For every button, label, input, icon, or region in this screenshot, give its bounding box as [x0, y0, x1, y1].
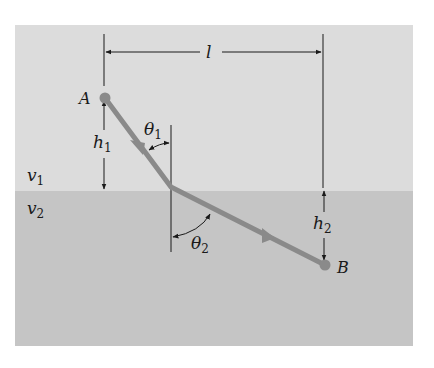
- medium-1-region: [15, 25, 413, 191]
- medium-2-region: [15, 191, 413, 346]
- refraction-diagram: l h1 h2 A B θ1 θ2 v1 v2: [0, 0, 434, 368]
- point-a-label: A: [77, 89, 91, 108]
- point-a-marker: [100, 93, 111, 104]
- point-b-label: B: [336, 258, 349, 277]
- dimension-l-label: l: [206, 42, 211, 62]
- point-b-marker: [320, 260, 331, 271]
